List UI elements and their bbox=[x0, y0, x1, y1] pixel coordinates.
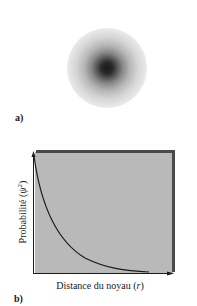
plot-top-border bbox=[36, 150, 175, 153]
x-axis-label: Distance du noyau (r) bbox=[56, 280, 144, 291]
plot-area bbox=[35, 152, 173, 273]
y-axis-label: Probabilité (ψ2) bbox=[16, 181, 28, 244]
probability-chart bbox=[0, 0, 197, 306]
plot-right-border bbox=[172, 150, 175, 272]
panel-b-label: b) bbox=[14, 293, 23, 304]
